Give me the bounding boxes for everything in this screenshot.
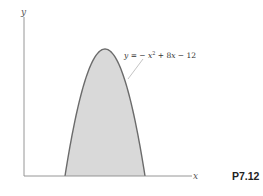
equation-label: y = − x2 + 8x − 12 (123, 50, 196, 60)
y-axis-label: y (20, 7, 27, 17)
problem-number: P7.12 (232, 170, 259, 182)
equation-leader-line (128, 59, 143, 79)
figure-canvas: y x y = − x2 + 8x − 12 (0, 0, 263, 196)
x-axis-label: x (193, 171, 198, 181)
